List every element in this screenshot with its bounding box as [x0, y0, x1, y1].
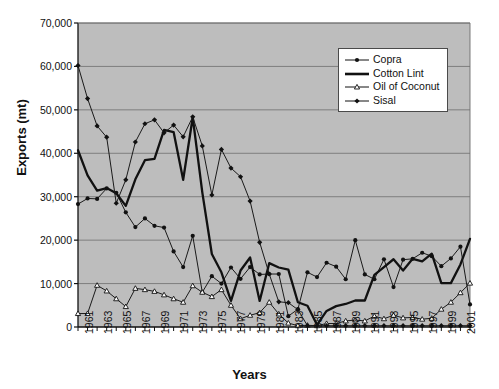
- legend-marker-icon: [344, 80, 370, 94]
- data-point-marker: [468, 302, 472, 306]
- x-tick-label: 1975: [216, 311, 228, 334]
- y-tick-label: 50,000: [24, 104, 72, 116]
- data-point-marker: [353, 238, 357, 242]
- data-point-marker: [382, 257, 386, 261]
- x-tick-label: 1993: [388, 311, 400, 334]
- legend-marker-icon: [344, 53, 370, 67]
- x-tick-label: 1999: [446, 311, 458, 334]
- x-tick-label: 1997: [427, 311, 439, 334]
- y-tick-label: 60,000: [24, 60, 72, 72]
- data-point-marker: [355, 58, 359, 62]
- x-tick-label: 1995: [408, 311, 420, 334]
- x-tick-label: 1969: [159, 311, 171, 334]
- chart-legend: CopraCotton LintOil of CoconutSisal: [338, 48, 448, 112]
- data-point-marker: [210, 274, 214, 278]
- legend-item-label: Sisal: [373, 94, 396, 108]
- legend-item-oil-of-coconut: Oil of Coconut: [344, 80, 440, 94]
- data-point-marker: [181, 265, 185, 269]
- legend-item-cotton-lint: Cotton Lint: [344, 67, 440, 81]
- x-tick-label: 1987: [331, 311, 343, 334]
- data-point-marker: [85, 196, 89, 200]
- data-point-marker: [449, 256, 453, 260]
- data-point-marker: [391, 285, 395, 289]
- data-point-marker: [162, 225, 166, 229]
- data-point-marker: [324, 261, 328, 265]
- legend-marker-icon: [344, 94, 370, 108]
- data-point-marker: [334, 265, 338, 269]
- data-point-marker: [219, 281, 223, 285]
- data-point-marker: [401, 258, 405, 262]
- x-axis-title: Years: [0, 367, 499, 382]
- data-point-marker: [305, 270, 309, 274]
- x-tick-label: 1977: [235, 311, 247, 334]
- data-point-marker: [152, 224, 156, 228]
- x-tick-label: 1965: [121, 311, 133, 334]
- data-point-marker: [344, 277, 348, 281]
- legend-item-sisal: Sisal: [344, 94, 440, 108]
- x-tick-label: 1991: [369, 311, 381, 334]
- x-tick-label: 1967: [140, 311, 152, 334]
- y-tick-label: 30,000: [24, 191, 72, 203]
- y-axis-tick-labels: 010,00020,00030,00040,00050,00060,00070,…: [24, 0, 72, 389]
- x-tick-label: 1971: [178, 311, 190, 334]
- data-point-marker: [277, 272, 281, 276]
- data-point-marker: [439, 264, 443, 268]
- x-tick-label: 1989: [350, 311, 362, 334]
- data-point-marker: [76, 202, 80, 206]
- data-point-marker: [172, 249, 176, 253]
- data-point-marker: [258, 272, 262, 276]
- y-tick-label: 40,000: [24, 147, 72, 159]
- x-tick-label: 1983: [293, 311, 305, 334]
- data-point-marker: [124, 210, 128, 214]
- legend-item-label: Cotton Lint: [373, 67, 424, 81]
- legend-item-label: Oil of Coconut: [373, 80, 440, 94]
- data-point-marker: [420, 251, 424, 255]
- data-point-marker: [133, 225, 137, 229]
- x-tick-label: 1973: [197, 311, 209, 334]
- y-tick-label: 10,000: [24, 278, 72, 290]
- data-point-marker: [363, 272, 367, 276]
- y-tick-label: 70,000: [24, 17, 72, 29]
- y-tick-label: 0: [24, 321, 72, 333]
- data-point-marker: [143, 216, 147, 220]
- legend-item-label: Copra: [373, 53, 402, 67]
- legend-marker-icon: [344, 67, 370, 81]
- x-tick-label: 1961: [83, 311, 95, 334]
- data-point-marker: [315, 275, 319, 279]
- x-tick-label: 1979: [255, 311, 267, 334]
- data-point-marker: [286, 314, 290, 318]
- data-point-marker: [229, 265, 233, 269]
- y-tick-label: 20,000: [24, 234, 72, 246]
- x-tick-label: 2001: [465, 311, 477, 334]
- x-tick-label: 1981: [274, 311, 286, 334]
- x-tick-label: 1963: [102, 311, 114, 334]
- x-tick-label: 1985: [312, 311, 324, 334]
- data-point-marker: [354, 98, 359, 103]
- export-line-chart: Exports (mt) 010,00020,00030,00040,00050…: [0, 0, 499, 389]
- data-point-marker: [458, 245, 462, 249]
- legend-item-copra: Copra: [344, 53, 440, 67]
- data-point-marker: [95, 197, 99, 201]
- data-point-marker: [191, 234, 195, 238]
